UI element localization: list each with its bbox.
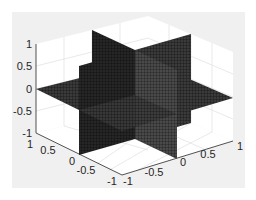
y-tick-0: 0 [69, 155, 75, 167]
figure: 1 0.5 0 -0.5 -1 1 0.5 0 -0.5 -1 -1 -0.5 … [0, 0, 256, 200]
x-tick-0: 0 [180, 156, 186, 168]
z-tick-neg0.5: -0.5 [13, 105, 32, 117]
x-tick-0.5: 0.5 [200, 148, 215, 160]
y-tick-neg1: -1 [107, 175, 117, 187]
z-tick-0.5: 0.5 [17, 60, 32, 72]
y-tick-neg0.5: -0.5 [77, 164, 96, 176]
y-tick-0.5: 0.5 [40, 144, 55, 156]
x-tick-1: 1 [237, 140, 243, 152]
x-tick-neg1: -1 [123, 175, 133, 187]
z-tick-1: 1 [26, 38, 32, 50]
z-tick-0: 0 [26, 83, 32, 95]
x-tick-neg0.5: -0.5 [145, 166, 164, 178]
y-tick-1: 1 [27, 138, 33, 150]
